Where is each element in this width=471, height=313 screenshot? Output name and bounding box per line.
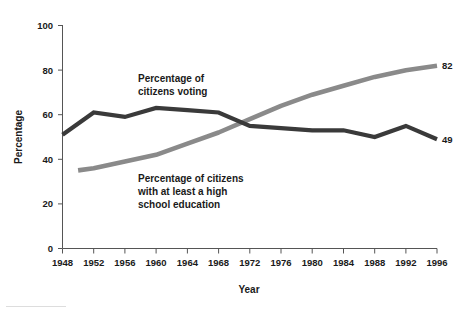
y-tick-label-100: 100 [37,20,53,31]
x-tick-label-1972: 1972 [239,257,260,268]
education-annotation-line-1: Percentage of citizens [138,173,244,184]
education-annotation: Percentage of citizens with at least a h… [137,173,244,210]
x-axis-tick-labels: 1948 1952 1956 1960 1964 1968 1972 1976 … [52,257,448,268]
x-tick-label-1996: 1996 [426,257,447,268]
y-tick-label-40: 40 [42,154,53,165]
y-tick-label-0: 0 [48,243,53,254]
x-tick-label-1956: 1956 [114,257,135,268]
x-tick-label-1984: 1984 [333,257,355,268]
voting-annotation-line-1: Percentage of [138,73,205,84]
y-tick-label-20: 20 [42,198,53,209]
x-tick-label-1988: 1988 [364,257,385,268]
x-tick-label-1992: 1992 [395,257,416,268]
education-annotation-line-2: with at least a high [137,186,227,197]
x-tick-label-1968: 1968 [208,257,229,268]
voting-annotation: Percentage of citizens voting [138,73,207,97]
series-line-voting [63,108,438,139]
end-label-voting: 49 [442,134,453,145]
y-tick-label-80: 80 [42,65,53,76]
x-axis-title: Year [238,284,259,295]
x-tick-label-1980: 1980 [302,257,323,268]
end-label-education: 82 [442,60,453,71]
y-tick-label-60: 60 [42,109,53,120]
y-axis-title: Percentage [13,110,24,164]
x-tick-label-1976: 1976 [270,257,291,268]
x-tick-label-1952: 1952 [83,257,104,268]
line-chart: 100 80 60 40 20 0 1948 1952 1 [0,0,471,313]
series-line-education [78,66,437,171]
x-tick-label-1964: 1964 [177,257,199,268]
y-axis-ticks [58,26,63,249]
education-annotation-line-3: school education [138,199,220,210]
x-tick-label-1948: 1948 [52,257,73,268]
x-tick-label-1960: 1960 [146,257,167,268]
voting-annotation-line-2: citizens voting [138,86,207,97]
x-axis-ticks [63,249,438,254]
chart-container: 100 80 60 40 20 0 1948 1952 1 [0,0,471,313]
y-axis-tick-labels: 100 80 60 40 20 0 [37,20,53,254]
